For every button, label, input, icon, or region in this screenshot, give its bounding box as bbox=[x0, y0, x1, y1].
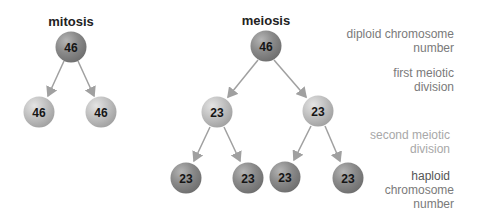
arrow-meiosis-2b bbox=[224, 127, 240, 161]
arrow-meiosis-2c bbox=[294, 126, 311, 160]
mitosis-parent-cell: 46 bbox=[56, 32, 87, 63]
label-line: second meiotic bbox=[370, 128, 450, 142]
arrow-mitosis-right bbox=[78, 61, 94, 96]
label-line: chromosome bbox=[385, 183, 454, 197]
arrow-mitosis-left bbox=[48, 61, 64, 96]
meiosis-gamete-cell: 23 bbox=[171, 163, 202, 194]
meiosis-gamete-cell: 23 bbox=[233, 163, 264, 194]
meiosis-gamete-cell: 23 bbox=[333, 163, 364, 194]
meiosis-gamete-cell: 23 bbox=[270, 162, 301, 193]
arrow-meiosis-2d bbox=[325, 126, 340, 161]
label-line: haploid bbox=[385, 169, 450, 183]
arrow-meiosis-2a bbox=[194, 127, 210, 161]
label-diploid-chromosome-number: diploid chromosome number bbox=[347, 27, 454, 55]
meiosis-title: meiosis bbox=[242, 13, 290, 28]
mitosis-title: mitosis bbox=[48, 14, 94, 29]
arrow-meiosis-1-right bbox=[274, 60, 306, 97]
meiosis-first-division-cell: 23 bbox=[303, 96, 334, 127]
mitosis-daughter-cell: 46 bbox=[86, 97, 117, 128]
label-first-meiotic-division: first meiotic division bbox=[393, 66, 454, 94]
meiosis-first-division-cell: 23 bbox=[202, 97, 233, 128]
meiosis-parent-cell: 46 bbox=[251, 31, 282, 62]
label-line: number bbox=[385, 197, 454, 211]
label-line: division bbox=[370, 142, 450, 156]
label-second-meiotic-division: second meiotic division bbox=[370, 128, 450, 156]
label-line: first meiotic bbox=[393, 66, 454, 80]
label-line: division bbox=[393, 80, 454, 94]
mitosis-daughter-cell: 46 bbox=[24, 97, 55, 128]
label-line: diploid chromosome bbox=[347, 27, 454, 41]
label-line: number bbox=[347, 41, 454, 55]
arrow-meiosis-1-left bbox=[228, 60, 258, 97]
label-haploid-chromosome-number: haploid chromosome number bbox=[385, 169, 454, 211]
